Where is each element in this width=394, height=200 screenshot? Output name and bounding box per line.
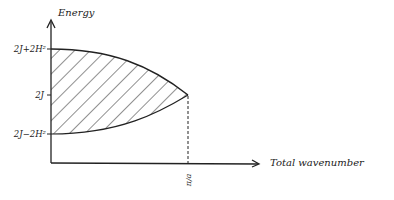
energy-band-diagram: Energy 2J+2H² 2J 2J−2H² π/a Total wavenu…	[0, 0, 394, 200]
y-tick-upper: 2J+2H²	[13, 44, 47, 54]
y-tick-middle: 2J	[34, 90, 44, 100]
y-axis-label: Energy	[57, 7, 95, 18]
x-axis-label: Total wavenumber	[270, 157, 365, 168]
x-tick-pi-over-a: π/a	[184, 173, 193, 187]
y-tick-lower: 2J−2H²	[13, 129, 47, 139]
x-axis	[51, 163, 258, 164]
